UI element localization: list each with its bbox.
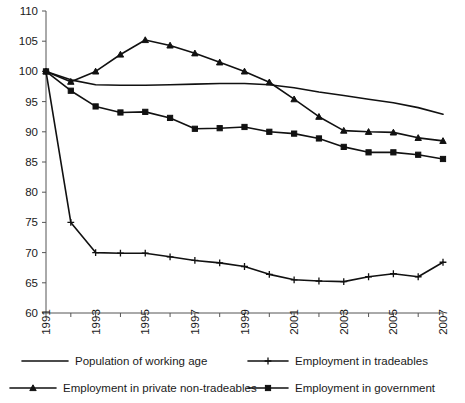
data-point-marker xyxy=(242,124,247,129)
x-tick-label: 1995 xyxy=(139,309,151,335)
data-point-marker xyxy=(117,250,124,257)
data-point-marker xyxy=(191,257,198,264)
data-point-marker xyxy=(291,276,298,283)
data-point-marker xyxy=(316,136,321,141)
chart-container: 6065707580859095100105110199119931995199… xyxy=(0,0,465,403)
legend-label: Employment in private non-tradeables xyxy=(63,382,257,394)
series-0 xyxy=(46,71,443,114)
data-point-marker xyxy=(440,259,447,266)
data-point-marker xyxy=(142,250,149,257)
y-tick-label: 75 xyxy=(25,216,38,228)
data-point-marker xyxy=(341,144,346,149)
legend-label: Employment in government xyxy=(295,382,436,394)
data-point-marker xyxy=(416,152,421,157)
y-tick-label: 100 xyxy=(19,65,38,77)
y-tick-label: 110 xyxy=(20,5,38,17)
data-point-marker xyxy=(366,150,371,155)
legend-entry-1[interactable]: Employment in tradeables xyxy=(248,355,428,367)
data-point-marker xyxy=(391,150,396,155)
legend-entry-3[interactable]: Employment in government xyxy=(248,382,436,394)
legend-label: Population of working age xyxy=(75,355,207,367)
data-point-marker xyxy=(265,385,270,390)
data-point-marker xyxy=(390,270,397,277)
x-tick-label: 1997 xyxy=(189,309,201,335)
legend-entry-0[interactable]: Population of working age xyxy=(22,355,207,367)
data-point-marker xyxy=(167,115,172,120)
data-point-marker xyxy=(316,278,323,285)
data-point-marker xyxy=(216,259,223,266)
line-chart: 6065707580859095100105110199119931995199… xyxy=(0,0,465,403)
y-tick-label: 65 xyxy=(25,277,38,289)
y-tick-label: 90 xyxy=(25,126,38,138)
y-tick-label: 105 xyxy=(19,35,38,47)
legend-label: Employment in tradeables xyxy=(295,355,428,367)
data-point-marker xyxy=(117,51,123,57)
y-tick-label: 85 xyxy=(25,156,38,168)
data-point-marker xyxy=(440,156,445,161)
data-point-marker xyxy=(292,131,297,136)
x-tick-label: 2007 xyxy=(437,309,449,335)
x-tick-label: 1991 xyxy=(40,309,52,335)
y-tick-label: 95 xyxy=(25,96,38,108)
x-tick-label: 2001 xyxy=(288,309,300,335)
legend-entry-2[interactable]: Employment in private non-tradeables xyxy=(10,382,257,394)
data-point-marker xyxy=(241,263,248,270)
series-line xyxy=(46,71,443,281)
x-tick-label: 2005 xyxy=(387,309,399,335)
data-point-marker xyxy=(415,273,422,280)
data-point-marker xyxy=(266,271,273,278)
data-point-marker xyxy=(267,129,272,134)
data-point-marker xyxy=(365,273,372,280)
series-line xyxy=(46,71,443,114)
data-point-marker xyxy=(340,278,347,285)
data-point-marker xyxy=(43,69,48,74)
data-point-marker xyxy=(93,104,98,109)
data-point-marker xyxy=(143,109,148,114)
data-point-marker xyxy=(192,126,197,131)
data-point-marker xyxy=(217,126,222,131)
data-point-marker xyxy=(265,358,272,365)
x-tick-label: 2003 xyxy=(338,309,350,335)
y-tick-label: 70 xyxy=(25,247,38,259)
y-tick-label: 60 xyxy=(25,307,38,319)
x-tick-label: 1993 xyxy=(90,309,102,335)
y-tick-label: 80 xyxy=(25,186,38,198)
series-1 xyxy=(43,68,447,285)
data-point-marker xyxy=(68,88,73,93)
data-point-marker xyxy=(118,110,123,115)
x-tick-label: 1999 xyxy=(239,309,251,335)
data-point-marker xyxy=(167,253,174,260)
